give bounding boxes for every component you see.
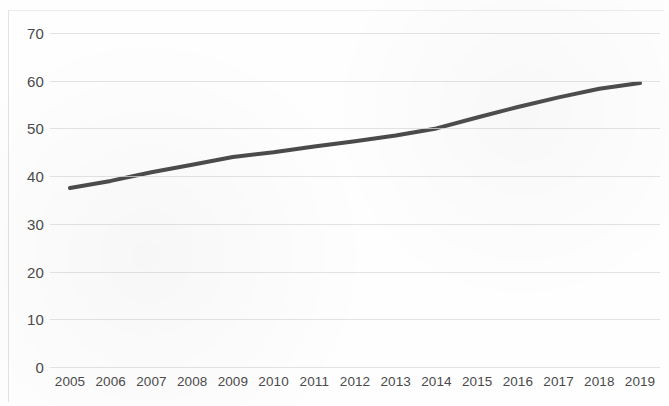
x-tick-label: 2012 [340,374,370,389]
y-tick-label: 20 [0,263,44,280]
y-tick-label: 30 [0,215,44,232]
x-axis: 2005200620072008200920102011201220132014… [50,374,660,398]
x-tick-label: 2015 [462,374,492,389]
x-tick-label: 2009 [218,374,248,389]
gridline-y-20 [50,272,660,273]
gridline-y-50 [50,128,660,129]
x-tick-label: 2014 [421,374,451,389]
x-tick-label: 2018 [584,374,614,389]
gridline-y-40 [50,176,660,177]
x-tick-label: 2006 [95,374,125,389]
gridline-y-10 [50,319,660,320]
series-line-1 [70,83,640,188]
x-tick-label: 2005 [55,374,85,389]
line-chart: 010203040506070 200520062007200820092010… [0,0,669,406]
y-tick-label: 0 [0,359,44,376]
gridline-y-30 [50,224,660,225]
x-tick-label: 2013 [380,374,410,389]
x-tick-label: 2017 [543,374,573,389]
y-axis: 010203040506070 [0,33,44,367]
gridline-y-0 [50,367,660,368]
y-tick-label: 10 [0,311,44,328]
series-line-layer [50,33,660,367]
plot-area [50,33,660,367]
x-tick-label: 2007 [136,374,166,389]
y-tick-label: 70 [0,25,44,42]
x-tick-label: 2008 [177,374,207,389]
y-tick-label: 50 [0,120,44,137]
gridline-y-60 [50,81,660,82]
y-tick-label: 40 [0,168,44,185]
x-tick-label: 2016 [503,374,533,389]
gridline-y-70 [50,33,660,34]
x-tick-label: 2019 [625,374,655,389]
x-tick-label: 2011 [300,374,329,389]
x-tick-label: 2010 [258,374,288,389]
y-tick-label: 60 [0,72,44,89]
